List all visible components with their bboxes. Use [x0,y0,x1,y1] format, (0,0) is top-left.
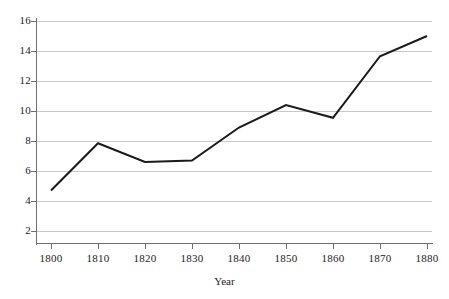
data-line-series-1 [51,36,427,191]
series-layer [0,0,449,299]
line-chart: 16 14 12 10 8 6 4 2 1800 1810 1820 1830 … [0,0,449,299]
